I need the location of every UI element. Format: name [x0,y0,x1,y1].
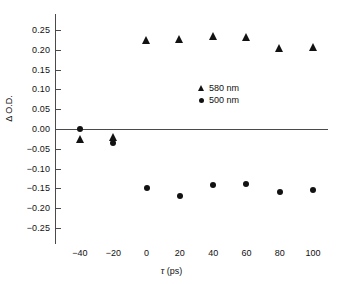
circle-marker-icon [196,98,206,103]
data-point-triangle [242,33,250,41]
x-axis-title-symbol: τ [161,265,165,276]
y-axis-tick [56,169,61,170]
data-point-triangle [142,36,150,44]
x-axis-title: τ (ps) [0,266,343,276]
y-axis-tick-label: −0.25 [20,224,50,233]
y-axis-tick [56,70,61,71]
data-point-triangle [76,135,84,143]
y-axis-tick-label: −0.15 [20,184,50,193]
legend-item: 580 nm [196,82,239,94]
y-axis-tick [56,89,61,90]
y-axis-tick-label: −0.10 [20,165,50,174]
y-axis-tick [56,30,61,31]
legend-item-label: 580 nm [209,82,239,94]
x-axis-tick-label: 100 [293,249,333,258]
y-axis-tick-label: 0.15 [20,66,50,75]
data-point-circle [177,193,183,199]
scatter-plot: 0.250.200.150.100.050.00−0.05−0.10−0.15−… [0,0,343,284]
data-point-circle [110,140,116,146]
y-axis-tick [56,188,61,189]
data-point-triangle [275,44,283,52]
data-point-circle [144,185,150,191]
y-axis-tick [56,149,61,150]
y-axis-tick-label: 0.10 [20,85,50,94]
data-point-circle [277,189,283,195]
zero-reference-line [55,129,328,130]
data-point-circle [210,182,216,188]
y-axis-title: Δ O.D. [5,81,14,137]
legend-item: 500 nm [196,94,239,106]
y-axis-tick [56,109,61,110]
data-point-circle [243,181,249,187]
data-point-circle [310,187,316,193]
y-axis-tick [56,129,61,130]
y-axis-tick [56,228,61,229]
y-axis-tick-label: 0.05 [20,105,50,114]
y-axis-tick-label: 0.25 [20,26,50,35]
figure: 0.250.200.150.100.050.00−0.05−0.10−0.15−… [0,0,343,284]
y-axis-tick [56,50,61,51]
y-axis-tick [56,208,61,209]
data-point-triangle [175,35,183,43]
y-axis-tick-label: −0.20 [20,204,50,213]
y-axis-tick-label: 0.00 [20,125,50,134]
y-axis-tick-label: 0.20 [20,46,50,55]
data-point-triangle [309,43,317,51]
x-axis-title-unit: (ps) [167,266,183,276]
y-axis-tick-label: −0.05 [20,145,50,154]
legend: 580 nm500 nm [196,82,239,106]
data-point-circle [77,126,83,132]
data-point-triangle [209,32,217,40]
legend-item-label: 500 nm [209,94,239,106]
triangle-marker-icon [196,85,206,91]
